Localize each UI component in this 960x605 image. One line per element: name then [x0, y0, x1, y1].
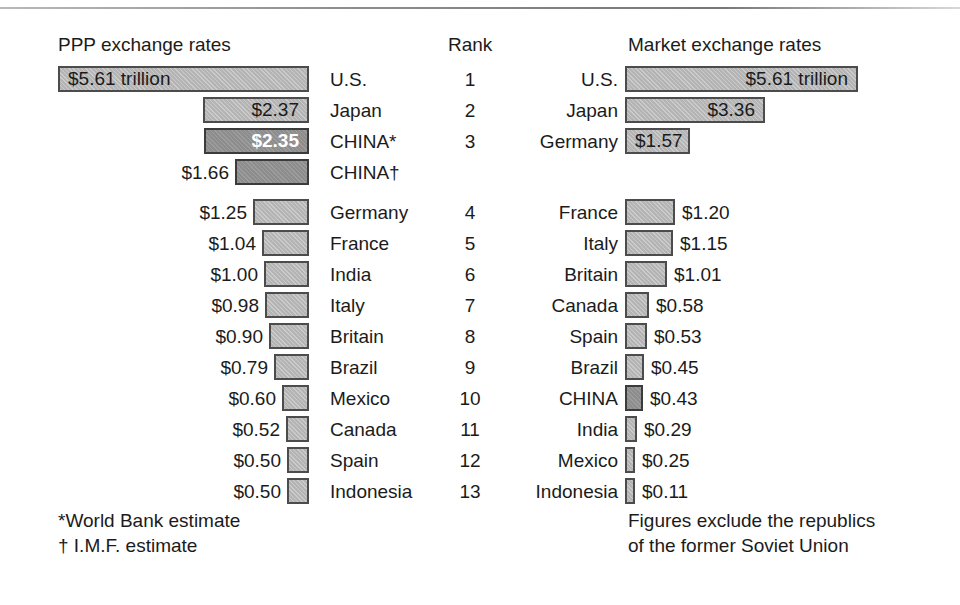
- top-divider-rule: [0, 7, 960, 9]
- ppp-value-label: $0.52: [232, 414, 280, 445]
- market-bar-track: $0.43: [625, 383, 945, 414]
- ppp-value-label: $1.66: [181, 157, 229, 188]
- chart-row: $0.98Italy7Canada$0.58: [0, 290, 960, 321]
- ppp-value-label: $0.50: [233, 476, 281, 507]
- chart-row: $0.52Canada11India$0.29: [0, 414, 960, 445]
- ppp-bar-wrap: [235, 159, 309, 185]
- market-value-label: $0.29: [644, 414, 692, 445]
- chart-row: $0.79Brazil9Brazil$0.45: [0, 352, 960, 383]
- market-bar-track: $0.29: [625, 414, 945, 445]
- footnotes-left: *World Bank estimate † I.M.F. estimate: [58, 508, 240, 558]
- ppp-bar-track: $0.50: [0, 476, 310, 507]
- chart-row: $1.66CHINA†: [0, 157, 960, 188]
- ppp-bar-track: $0.50: [0, 445, 310, 476]
- ppp-bar-track: $1.66: [0, 157, 310, 188]
- ppp-bar-track: $0.79: [0, 352, 310, 383]
- ppp-bar-wrap: [265, 292, 309, 318]
- ppp-bar-wrap: $2.37: [203, 97, 309, 123]
- ppp-country-label: France: [330, 228, 389, 259]
- market-bar-wrap: [625, 323, 647, 349]
- market-value-label: $1.15: [680, 228, 728, 259]
- ppp-bar: [253, 199, 309, 225]
- market-bar: [625, 323, 647, 349]
- ppp-bar-track: $0.98: [0, 290, 310, 321]
- ppp-country-label: CHINA†: [330, 157, 400, 188]
- market-value-label: $0.53: [654, 321, 702, 352]
- ppp-bar-track: $0.52: [0, 414, 310, 445]
- market-country-label: Japan: [440, 95, 618, 126]
- ppp-bar-wrap: $2.35: [204, 128, 309, 154]
- market-bar-track: $0.58: [625, 290, 945, 321]
- ppp-country-label: U.S.: [330, 64, 367, 95]
- market-bar-track: $0.45: [625, 352, 945, 383]
- market-bar-wrap: [625, 416, 637, 442]
- ppp-value-label: $1.00: [210, 259, 258, 290]
- market-bar: [625, 447, 635, 473]
- market-value-label: $0.58: [656, 290, 704, 321]
- market-value-label: $1.01: [674, 259, 722, 290]
- market-bar-track: $1.15: [625, 228, 945, 259]
- market-bar-wrap: [625, 230, 673, 256]
- market-bar: [625, 416, 637, 442]
- ppp-country-label: India: [330, 259, 371, 290]
- ppp-bar-value-label: $2.37: [243, 99, 307, 121]
- market-value-label: $0.25: [642, 445, 690, 476]
- market-value-label: $1.20: [682, 197, 730, 228]
- header-ppp-exchange-rates: PPP exchange rates: [58, 33, 231, 57]
- ppp-bar-track: $1.25: [0, 197, 310, 228]
- market-bar-wrap: [625, 292, 649, 318]
- market-value-label: $0.43: [650, 383, 698, 414]
- market-value-label: $0.45: [651, 352, 699, 383]
- ppp-country-label: Brazil: [330, 352, 378, 383]
- market-country-label: Indonesia: [440, 476, 618, 507]
- ppp-country-label: Germany: [330, 197, 408, 228]
- market-bar-wrap: $1.57: [625, 128, 690, 154]
- market-bar-wrap: [625, 354, 644, 380]
- market-country-label: Mexico: [440, 445, 618, 476]
- ppp-bar: $5.61 trillion: [58, 66, 309, 92]
- header-rank: Rank: [448, 33, 492, 57]
- footnote-world-bank: *World Bank estimate: [58, 508, 240, 533]
- ppp-value-label: $1.25: [199, 197, 247, 228]
- ppp-country-label: Mexico: [330, 383, 390, 414]
- column-headers: PPP exchange rates Rank Market exchange …: [0, 33, 960, 59]
- ppp-bar-value-label: $2.35: [243, 130, 307, 152]
- ppp-bar-wrap: [274, 354, 309, 380]
- ppp-value-label: $0.50: [233, 445, 281, 476]
- ppp-bar: [287, 447, 309, 473]
- ppp-bar-wrap: [282, 385, 309, 411]
- market-country-label: France: [440, 197, 618, 228]
- ppp-bar-track: $1.04: [0, 228, 310, 259]
- market-bar: [625, 354, 644, 380]
- ppp-bar-track: $0.90: [0, 321, 310, 352]
- ppp-bar-wrap: [287, 478, 309, 504]
- ppp-bar-wrap: [253, 199, 309, 225]
- ppp-country-label: Italy: [330, 290, 365, 321]
- chart-row: $1.04France5Italy$1.15: [0, 228, 960, 259]
- chart-row: $2.35CHINA*3Germany$1.57: [0, 126, 960, 157]
- footnote-soviet-line2: of the former Soviet Union: [628, 533, 928, 558]
- market-country-label: U.S.: [440, 64, 618, 95]
- chart-row: $0.50Spain12Mexico$0.25: [0, 445, 960, 476]
- chart-row: $0.60Mexico10CHINA$0.43: [0, 383, 960, 414]
- market-bar: [625, 261, 667, 287]
- market-bar: $1.57: [625, 128, 690, 154]
- ppp-value-label: $0.98: [211, 290, 259, 321]
- market-bar-value-label: $5.61 trillion: [738, 68, 856, 90]
- ppp-bar: [282, 385, 309, 411]
- market-bar-wrap: [625, 447, 635, 473]
- footnote-imf: † I.M.F. estimate: [58, 533, 240, 558]
- footnote-soviet-line1: Figures exclude the republics: [628, 508, 928, 533]
- rank-label: [432, 157, 508, 188]
- market-bar: [625, 478, 635, 504]
- market-bar-track: $5.61 trillion: [625, 64, 945, 95]
- ppp-country-label: Indonesia: [330, 476, 412, 507]
- market-country-label: CHINA: [440, 383, 618, 414]
- market-country-label: Italy: [440, 228, 618, 259]
- chart-row: $1.00India6Britain$1.01: [0, 259, 960, 290]
- ppp-bar-track: $5.61 trillion: [0, 64, 310, 95]
- ppp-bar-wrap: $5.61 trillion: [58, 66, 309, 92]
- market-bar-wrap: [625, 261, 667, 287]
- chart-rows: $5.61 trillionU.S.1U.S.$5.61 trillion$2.…: [0, 64, 960, 507]
- ppp-bar-wrap: [264, 261, 309, 287]
